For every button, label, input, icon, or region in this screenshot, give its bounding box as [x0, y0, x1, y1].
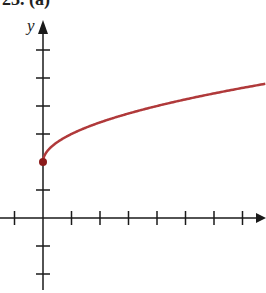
axes	[0, 20, 266, 290]
y-axis-arrow-icon	[38, 20, 48, 34]
function-curve	[43, 84, 265, 162]
x-axis-arrow-icon	[256, 213, 266, 223]
y-axis-label: y	[27, 16, 35, 36]
start-point	[39, 158, 47, 166]
function-graph	[0, 0, 266, 293]
axis-ticks	[15, 50, 243, 274]
